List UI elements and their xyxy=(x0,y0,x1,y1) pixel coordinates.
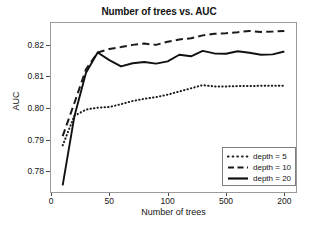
y-tick-label: 0.78 xyxy=(18,166,44,176)
x-axis-label: Number of trees xyxy=(50,207,297,217)
legend-line-sample xyxy=(227,162,249,173)
x-tick-label: 100 xyxy=(153,196,183,206)
x-tick-label: 0 xyxy=(36,196,66,206)
legend-item-2[interactable]: depth = 10 xyxy=(227,162,291,173)
legend-line-sample xyxy=(227,173,249,184)
y-tick-label: 0.80 xyxy=(18,103,44,113)
legend-label: depth = 10 xyxy=(249,163,291,172)
x-tick-label: 200 xyxy=(269,196,299,206)
chart-title: Number of trees vs. AUC xyxy=(0,6,318,17)
x-tick-label: 50 xyxy=(94,196,124,206)
series-line-2 xyxy=(63,31,285,136)
series-line-1 xyxy=(63,85,285,145)
x-tick-label: 500 xyxy=(211,196,241,206)
legend-item-3[interactable]: depth = 20 xyxy=(227,173,291,184)
y-tick-label: 0.82 xyxy=(18,40,44,50)
y-tick-label: 0.79 xyxy=(18,135,44,145)
legend-line-sample xyxy=(227,151,249,162)
chart-legend: depth = 5depth = 10depth = 20 xyxy=(222,147,296,186)
y-axis-label: AUC xyxy=(11,71,21,131)
y-tick-label: 0.81 xyxy=(18,71,44,81)
legend-label: depth = 20 xyxy=(249,174,291,183)
legend-item-1[interactable]: depth = 5 xyxy=(227,151,291,162)
legend-label: depth = 5 xyxy=(249,152,287,161)
chart-figure: Number of trees vs. AUC AUC Number of tr… xyxy=(0,0,318,227)
